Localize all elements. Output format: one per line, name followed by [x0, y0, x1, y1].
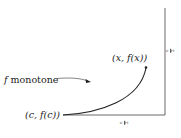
horizontal-tick-numerator: ε [119, 122, 123, 124]
horizontal-tick-label: ε 2 [119, 121, 129, 125]
monotone-function-diagram: (x, f(x)) f monotone (c, f(c)) ε 2 ε 2 [0, 0, 181, 138]
horizontal-tick-denominator: 2 [125, 122, 129, 125]
start-point-label: (c, f(c)) [25, 110, 60, 120]
annotation-arrow-line [57, 78, 88, 81]
arrowhead-icon [86, 79, 92, 83]
monotone-annotation: f monotone [4, 75, 58, 85]
end-point-label: (x, f(x)) [112, 53, 147, 63]
vertical-tick-numerator: ε [165, 50, 169, 52]
end-point-text: (x, f(x)) [112, 52, 147, 63]
monotone-curve [63, 68, 146, 115]
monotone-text: monotone [8, 74, 59, 85]
start-point-text: (c, f(c)) [25, 109, 60, 120]
vertical-tick-denominator: 2 [171, 50, 175, 53]
end-point-marker [145, 66, 148, 69]
vertical-tick-label: ε 2 [165, 49, 175, 53]
